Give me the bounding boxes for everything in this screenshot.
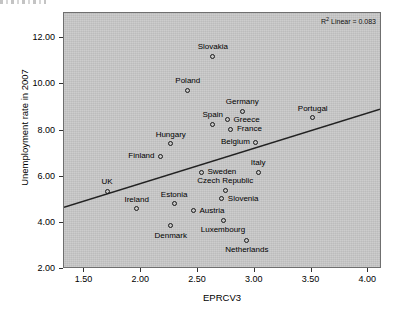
data-point-label: Portugal <box>298 105 328 113</box>
data-point-label: Sweden <box>207 168 236 176</box>
data-point-label: Greece <box>234 116 260 124</box>
fit-line-segment <box>64 109 380 207</box>
data-point-label: Estonia <box>161 191 188 199</box>
x-tick-mark <box>311 268 312 272</box>
x-tick-label: 3.00 <box>232 274 276 284</box>
data-point-label: Slovakia <box>198 43 228 51</box>
data-point-marker <box>105 189 110 194</box>
r-squared-value-text: Linear = 0.083 <box>329 18 376 25</box>
y-tick-label: 2.00 <box>11 263 55 273</box>
data-point-marker <box>223 188 228 193</box>
data-point-marker <box>221 218 226 223</box>
data-point-label: Luxembourg <box>201 226 245 234</box>
x-tick-mark <box>197 268 198 272</box>
data-point-marker <box>244 238 249 243</box>
data-point-label: Netherlands <box>225 246 268 254</box>
data-point-label: Poland <box>175 77 200 85</box>
r-squared-annotation: R2 Linear = 0.083 <box>321 16 376 25</box>
y-tick-mark <box>59 268 63 269</box>
y-tick-label: 6.00 <box>11 171 55 181</box>
data-point-marker <box>228 127 233 132</box>
scan-artifact <box>0 0 46 4</box>
x-tick-mark <box>83 268 84 272</box>
y-tick-label: 10.00 <box>11 78 55 88</box>
data-point-marker <box>185 88 190 93</box>
x-axis-title: EPRCV3 <box>63 292 381 303</box>
data-point-marker <box>158 154 163 159</box>
x-tick-label: 1.50 <box>61 274 105 284</box>
x-tick-label: 2.00 <box>118 274 162 284</box>
data-point-label: Denmark <box>155 232 187 240</box>
data-point-label: Spain <box>203 111 223 119</box>
x-tick-label: 2.50 <box>175 274 219 284</box>
data-point-marker <box>168 141 173 146</box>
data-point-marker <box>310 115 315 120</box>
data-point-marker <box>253 140 258 145</box>
data-point-label: France <box>237 125 262 133</box>
data-point-marker <box>134 206 139 211</box>
data-point-marker <box>225 117 230 122</box>
data-point-marker <box>191 208 196 213</box>
data-point-marker <box>219 196 224 201</box>
data-point-label: Ireland <box>124 196 148 204</box>
y-tick-label: 8.00 <box>11 125 55 135</box>
data-point-marker <box>168 223 173 228</box>
data-point-label: Germany <box>226 98 259 106</box>
y-tick-label: 4.00 <box>11 217 55 227</box>
data-point-label: Finland <box>128 152 154 160</box>
data-point-label: Belgium <box>221 138 250 146</box>
x-tick-mark <box>140 268 141 272</box>
data-point-marker <box>240 109 245 114</box>
y-tick-label: 12.00 <box>11 32 55 42</box>
data-point-label: Austria <box>199 207 224 215</box>
plot-area: SlovakiaPolandGermanyPortugalGreeceSpain… <box>63 12 381 268</box>
x-tick-mark <box>254 268 255 272</box>
data-point-label: UK <box>102 178 113 186</box>
x-tick-label: 3.50 <box>289 274 333 284</box>
data-point-marker <box>210 122 215 127</box>
data-point-marker <box>172 201 177 206</box>
data-point-label: Hungary <box>156 131 186 139</box>
data-point-marker <box>256 170 261 175</box>
x-tick-mark <box>367 268 368 272</box>
x-tick-label: 4.00 <box>345 274 389 284</box>
data-point-label: Slovenia <box>228 195 259 203</box>
data-point-label: Italy <box>251 159 266 167</box>
data-point-label: Czech Republic <box>197 177 253 185</box>
data-point-marker <box>210 54 215 59</box>
data-point-marker <box>199 170 204 175</box>
scatter-plot-figure: Unemployment rate in 2007 2.004.006.008.… <box>0 0 395 316</box>
